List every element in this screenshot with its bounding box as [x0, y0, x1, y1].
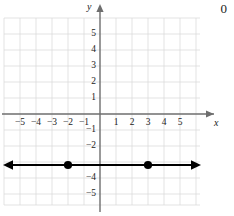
- x-axis-arrowhead: [206, 110, 214, 117]
- y-tick-label-2: 2: [91, 77, 96, 87]
- x-tick-label-4: 4: [162, 118, 167, 128]
- x-tick-label-neg5: −5: [15, 118, 25, 128]
- x-tick-label-1: 1: [114, 118, 119, 128]
- y-tick-label-1: 1: [91, 93, 96, 103]
- data-point: [64, 161, 72, 169]
- y-axis-arrowhead: [96, 4, 103, 12]
- x-tick-label-5: 5: [178, 118, 183, 128]
- x-tick-label-neg4: −4: [31, 118, 41, 128]
- y-tick-label-neg5: −5: [86, 189, 96, 199]
- corner-mark: 0: [221, 2, 228, 15]
- x-tick-label-3: 3: [146, 118, 151, 128]
- coordinate-plane-figure: y x −5 −4 −3 −2 −1 1 2 3 4 5 5 4 3 2 1 −…: [0, 0, 234, 216]
- y-axis-label: y: [87, 2, 91, 12]
- data-point: [144, 161, 152, 169]
- grid-lines: [4, 18, 200, 205]
- y-tick-label-neg1: −1: [86, 125, 96, 135]
- y-tick-label-neg2: −2: [86, 141, 96, 151]
- y-tick-label-5: 5: [91, 29, 96, 39]
- graph-canvas: [0, 0, 234, 216]
- y-tick-label-3: 3: [91, 61, 96, 71]
- y-tick-label-4: 4: [91, 45, 96, 55]
- x-axis-label: x: [214, 118, 218, 128]
- y-axis: [96, 4, 103, 212]
- x-tick-label-neg2: −2: [63, 118, 73, 128]
- x-tick-label-2: 2: [130, 118, 135, 128]
- y-tick-label-neg4: −4: [86, 173, 96, 183]
- x-tick-label-neg3: −3: [47, 118, 57, 128]
